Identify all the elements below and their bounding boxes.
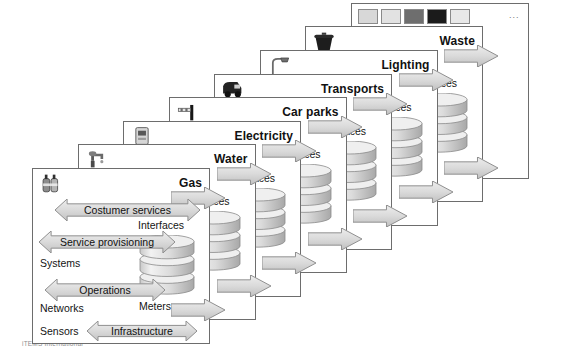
layer-arrow-service-provisioning[interactable]: Service provisioning	[39, 231, 175, 253]
interfaces-out-arrow-bottom[interactable]	[353, 205, 407, 231]
interfaces-out-arrow-bottom[interactable]	[444, 157, 498, 183]
thumbnail-people	[381, 9, 401, 24]
back-panel-thumbnail-row	[358, 9, 470, 24]
interfaces-out-arrow-top[interactable]	[308, 116, 362, 142]
thumbnail-cctv-camera	[358, 9, 378, 24]
side-label-sensors: Sensors	[40, 325, 79, 337]
interfaces-out-arrow-bottom[interactable]	[262, 252, 316, 278]
thumbnail-pole	[450, 9, 470, 24]
thumbnail-building	[404, 9, 424, 24]
panel-gas[interactable]: GasInterfacesCostumer servicesService pr…	[32, 168, 210, 344]
interfaces-out-arrow-top[interactable]	[262, 140, 316, 166]
side-label-networks: Networks	[40, 302, 84, 314]
interfaces-out-arrow-bottom[interactable]	[399, 181, 453, 207]
gas-cylinder-icon	[40, 172, 62, 198]
side-label-systems: Systems	[40, 257, 80, 269]
layer-arrow-costumer-services[interactable]: Costumer services	[55, 199, 200, 221]
interfaces-out-arrow-top[interactable]	[399, 69, 453, 95]
interfaces-out-arrow-top[interactable]	[217, 163, 271, 189]
layer-arrow-operations[interactable]: Operations	[45, 279, 165, 301]
more-domains-ellipsis: ...	[509, 10, 520, 20]
layer-arrow-infrastructure[interactable]: Infrastructure	[87, 321, 197, 341]
interfaces-out-arrow-bottom[interactable]	[217, 275, 271, 301]
interfaces-out-arrow-top[interactable]	[444, 45, 498, 71]
interfaces-out-arrow-bottom[interactable]	[308, 228, 362, 254]
meters-label: Meters	[139, 300, 171, 312]
thumbnail-dark-scene	[427, 9, 447, 24]
interfaces-out-arrow-top[interactable]	[353, 93, 407, 119]
layered-domain-stack-diagram: ...WasteInterfacesLightingInterfacesTran…	[0, 0, 581, 362]
